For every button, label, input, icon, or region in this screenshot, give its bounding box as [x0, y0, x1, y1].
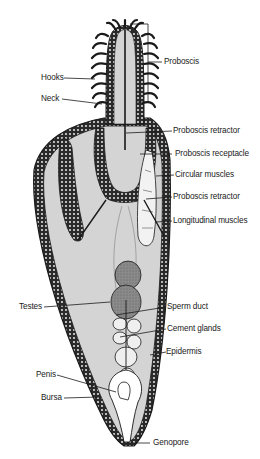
label-proboscis-receptacle: Proboscis receptacle	[175, 149, 249, 159]
label-epidermis: Epidermis	[166, 347, 202, 357]
label-genopore: Genopore	[153, 438, 189, 448]
label-proboscis-retractor-2: Proboscis retractor	[173, 192, 240, 202]
label-longitudinal-muscles: Longitudinal muscles	[173, 216, 247, 226]
label-proboscis: Proboscis	[164, 57, 199, 67]
label-circular-muscles: Circular muscles	[175, 170, 234, 180]
label-neck: Neck	[41, 94, 59, 104]
label-testes: Testes	[19, 302, 42, 312]
label-penis: Penis	[36, 370, 56, 380]
label-sperm-duct: Sperm duct	[167, 302, 208, 312]
label-hooks: Hooks	[41, 73, 64, 83]
label-cement-glands: Cement glands	[167, 324, 221, 334]
anatomy-diagram: Proboscis Hooks Neck Proboscis retractor…	[0, 0, 260, 459]
label-bursa: Bursa	[41, 393, 62, 403]
label-proboscis-retractor-1: Proboscis retractor	[173, 126, 240, 136]
